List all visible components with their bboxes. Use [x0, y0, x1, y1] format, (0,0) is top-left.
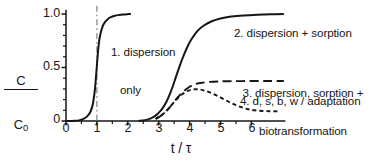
- y-axis-title-numerator: C: [4, 74, 38, 90]
- x-tick-label-1: 1: [87, 122, 107, 136]
- curve-3-label-line2: biotransformation: [227, 125, 379, 138]
- chart-figure: 1.0 0.5 0 0 1 2 3 4 5 6 t / τ C C0 1. di…: [0, 0, 385, 165]
- y-axis-title-denominator-subscript: 0: [23, 121, 28, 132]
- y-axis-title-denominator: C0: [4, 118, 38, 134]
- curve-2-label: 2. dispersion + sorption: [234, 27, 352, 40]
- x-tick-label-4: 4: [180, 122, 200, 136]
- x-tick-label-3: 3: [149, 122, 169, 136]
- y-axis-title: C C0: [4, 46, 38, 161]
- y-tick-label-1: 1.0: [30, 7, 60, 21]
- curve-1-label-line1: 1. dispersion: [111, 46, 175, 59]
- x-tick-label-2: 2: [118, 122, 138, 136]
- x-tick-label-0: 0: [56, 122, 76, 136]
- y-axis-title-denominator-base: C: [14, 117, 23, 132]
- curve-3-label: 3. dispersion, sorption + biotransformat…: [227, 62, 379, 162]
- x-axis-title: t / τ: [141, 141, 221, 156]
- curve-1-label: 1. dispersion only: [111, 21, 175, 121]
- curve-1-label-line2: only: [111, 84, 175, 97]
- curve-4-label: 4. d, s, b, w / adaptation: [240, 95, 361, 108]
